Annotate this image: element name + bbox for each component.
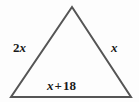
label-left-variable: x xyxy=(20,40,27,55)
label-left-side: 2x xyxy=(13,41,26,54)
label-base-constant: 18 xyxy=(63,78,76,93)
label-base-operator: + xyxy=(54,78,63,93)
label-base-side: x+18 xyxy=(47,79,76,92)
triangle-figure: 2x x x+18 xyxy=(0,0,139,102)
label-right-variable: x xyxy=(111,40,118,55)
label-base-variable: x xyxy=(47,78,54,93)
label-right-side: x xyxy=(111,41,118,54)
